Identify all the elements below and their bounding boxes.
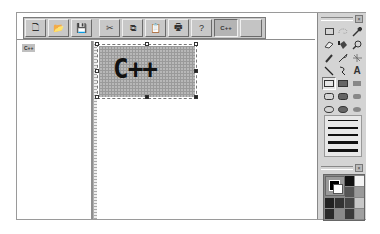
new-file-icon: 🗋 [32, 20, 39, 36]
color-swatch[interactable] [325, 209, 334, 219]
ellipse-outline-icon [324, 106, 334, 113]
grip [321, 166, 353, 170]
color-palette [323, 174, 365, 221]
color-swatch[interactable] [345, 176, 354, 186]
current-colors [325, 176, 345, 196]
copy-button[interactable]: ⧉ [122, 19, 143, 37]
color-swatch[interactable] [345, 198, 354, 208]
color-swatch[interactable] [335, 209, 344, 219]
color-swatch[interactable] [325, 198, 334, 208]
brush-tool[interactable] [336, 51, 350, 64]
eyedropper-icon [352, 27, 362, 37]
paint-window: 🗋 📂 💾 ✂ ⧉ 📋 🖶 ? C++ C++ C++ [16, 12, 366, 220]
open-folder-icon: 📂 [53, 23, 64, 33]
rounded-rect-filled-tool[interactable] [336, 90, 350, 103]
lasso-select-tool[interactable] [336, 25, 350, 38]
tool-grid: A [322, 25, 364, 116]
line-width-5[interactable] [328, 149, 358, 152]
open-button[interactable]: 📂 [48, 19, 69, 37]
scissors-icon: ✂ [106, 23, 114, 33]
paste-icon: 📋 [150, 23, 161, 33]
line-width-2[interactable] [328, 127, 358, 129]
resize-handle[interactable] [95, 69, 99, 73]
printer-icon: 🖶 [174, 20, 183, 36]
resize-handle[interactable] [194, 95, 198, 99]
image-text: C++ [113, 56, 157, 82]
rectangle-filled-tool[interactable] [336, 77, 350, 90]
rectangle-outline-tool[interactable] [322, 77, 336, 90]
close-icon[interactable]: × [355, 15, 363, 23]
left-pane: C++ [19, 41, 93, 219]
resize-handle[interactable] [145, 42, 149, 46]
new-button[interactable]: 🗋 [25, 19, 46, 37]
color-swatch[interactable] [355, 209, 364, 219]
magnifier-tool[interactable] [350, 38, 364, 51]
lasso-icon [338, 28, 348, 35]
drawing-canvas[interactable]: C++ [93, 41, 314, 219]
color-swatch[interactable] [355, 198, 364, 208]
rectangle-select-icon [325, 28, 334, 35]
brush-icon [338, 53, 348, 63]
curve-icon [338, 66, 348, 76]
color-swatch[interactable] [355, 187, 364, 197]
selection-rectangle[interactable]: C++ [97, 44, 197, 99]
airbrush-tool[interactable] [350, 51, 364, 64]
rectangle-solid-icon [352, 80, 362, 87]
resize-handle[interactable] [95, 42, 99, 46]
airbrush-icon [352, 53, 363, 63]
cut-button[interactable]: ✂ [99, 19, 120, 37]
resize-handle[interactable] [194, 42, 198, 46]
list-item[interactable]: C++ [22, 44, 35, 52]
color-swatch[interactable] [345, 187, 354, 197]
rectangle-filled-no-border-tool[interactable] [350, 77, 364, 90]
resize-handle[interactable] [145, 95, 149, 99]
pencil-icon [324, 53, 334, 63]
curve-tool[interactable] [336, 64, 350, 77]
blank-button[interactable] [240, 19, 262, 37]
cpp-button[interactable]: C++ [214, 19, 238, 37]
fill-bucket-tool[interactable] [336, 38, 350, 51]
color-swatch[interactable] [335, 198, 344, 208]
help-button[interactable]: ? [191, 19, 212, 37]
pencil-tool[interactable] [322, 51, 336, 64]
copy-icon: ⧉ [130, 23, 136, 34]
print-button[interactable]: 🖶 [168, 19, 189, 37]
standard-toolbar: 🗋 📂 💾 ✂ ⧉ 📋 🖶 ? C++ [23, 17, 266, 39]
color-swatch[interactable] [355, 176, 364, 186]
line-width-1[interactable] [328, 120, 358, 121]
rectangle-outline-icon [324, 80, 334, 87]
paste-button[interactable]: 📋 [145, 19, 166, 37]
eraser-tool[interactable] [322, 38, 336, 51]
rectangle-filled-icon [338, 80, 348, 87]
close-icon[interactable]: × [355, 164, 363, 172]
magnifier-icon [352, 40, 362, 50]
toolbar-row: 🗋 📂 💾 ✂ ⧉ 📋 🖶 ? C++ [17, 13, 315, 40]
eraser-icon [324, 41, 334, 49]
pixel-image: C++ [99, 46, 195, 97]
help-icon: ? [199, 23, 204, 33]
rounded-rect-outline-icon [324, 93, 334, 100]
background-color[interactable] [333, 184, 343, 194]
ellipse-filled-icon [338, 106, 348, 113]
line-icon [324, 66, 334, 76]
eyedropper-tool[interactable] [350, 25, 364, 38]
text-icon: A [353, 65, 360, 76]
grip [321, 17, 353, 21]
line-width-selector[interactable] [324, 115, 362, 157]
tool-palette-titlebar[interactable]: × [321, 16, 363, 22]
text-tool[interactable]: A [350, 64, 364, 77]
rounded-rect-filled-icon [338, 93, 348, 100]
rounded-rect-solid-icon [352, 93, 362, 100]
color-swatch[interactable] [345, 209, 354, 219]
resize-handle[interactable] [95, 95, 99, 99]
rounded-rect-filled-no-border-tool[interactable] [350, 90, 364, 103]
color-palette-titlebar[interactable]: × [321, 165, 363, 171]
rounded-rect-outline-tool[interactable] [322, 90, 336, 103]
floppy-disk-icon: 💾 [76, 23, 87, 33]
save-button[interactable]: 💾 [71, 19, 92, 37]
rectangle-select-tool[interactable] [322, 25, 336, 38]
resize-handle[interactable] [194, 69, 198, 73]
line-width-3[interactable] [328, 134, 358, 136]
line-width-4[interactable] [328, 141, 358, 144]
line-tool[interactable] [322, 64, 336, 77]
